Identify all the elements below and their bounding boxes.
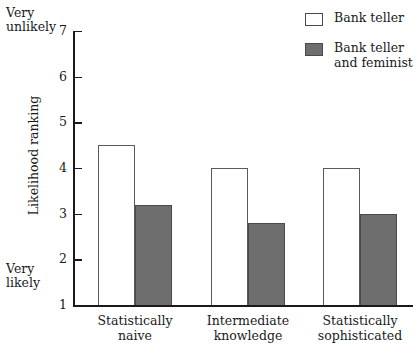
legend-item-bank-teller-and-feminist: Bank teller and feminist <box>305 41 417 70</box>
likelihood-ranking-bar-chart: Very unlikely Very likely Likelihood ran… <box>0 0 418 362</box>
y-tick-label-1: 1 <box>51 297 67 312</box>
bar-group2-bank-teller <box>211 168 248 305</box>
open-square-swatch-icon <box>305 13 323 26</box>
y-axis-top-anchor-label: Very unlikely <box>6 6 56 34</box>
bar-group3-bank-teller-and-feminist <box>360 214 397 305</box>
legend-label-bank-teller: Bank teller <box>334 11 404 26</box>
y-tick-label-3: 3 <box>51 206 67 221</box>
y-axis-bottom-anchor-label: Very likely <box>6 262 40 290</box>
x-category-label-2: Intermediate knowledge <box>183 313 313 343</box>
bar-group2-bank-teller-and-feminist <box>248 223 285 305</box>
legend-item-bank-teller: Bank teller <box>305 11 417 26</box>
filled-square-swatch-icon <box>305 43 323 56</box>
y-tick-label-7: 7 <box>51 23 67 38</box>
y-tick-label-5: 5 <box>51 114 67 129</box>
legend-label-bank-teller-and-feminist: Bank teller and feminist <box>334 41 413 70</box>
x-axis-line <box>73 305 413 307</box>
bar-group3-bank-teller <box>323 168 360 305</box>
bar-group1-bank-teller <box>98 145 135 305</box>
bar-group1-bank-teller-and-feminist <box>135 205 172 305</box>
y-tick-label-2: 2 <box>51 251 67 266</box>
x-category-label-3: Statistically sophisticated <box>295 313 418 343</box>
y-tick-label-6: 6 <box>51 69 67 84</box>
x-category-label-1: Statistically naive <box>70 313 200 343</box>
y-tick-label-4: 4 <box>51 160 67 175</box>
chart-legend: Bank teller Bank teller and feminist <box>305 11 417 85</box>
y-axis-title: Likelihood ranking <box>26 86 41 226</box>
